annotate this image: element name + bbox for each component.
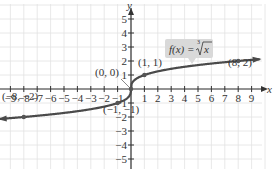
point-label: (0, 0) — [95, 66, 119, 79]
x-tick-label: 2 — [155, 92, 161, 104]
x-tick-label: 6 — [209, 92, 215, 104]
y-tick-label: 5 — [122, 13, 128, 25]
point-label: (−1, −1) — [103, 103, 140, 116]
curve-arrow-icon — [252, 57, 261, 63]
function-label: f(x) = 3 x — [165, 39, 213, 64]
x-tick-label: −5 — [58, 92, 70, 104]
x-tick-label: 8 — [235, 92, 241, 104]
point-label: (−8, −2) — [2, 90, 39, 103]
cube-root-graph: −9−8−7−6−5−4−3−2−1123456789−5−4−3−2−1123… — [0, 0, 274, 169]
x-tick-label: 5 — [195, 92, 201, 104]
data-point — [22, 115, 26, 119]
x-axis-label: x — [266, 83, 272, 95]
y-tick-label: −3 — [115, 125, 127, 137]
x-tick-label: 4 — [182, 92, 188, 104]
y-tick-label: 3 — [122, 41, 128, 53]
radical-index: 3 — [197, 39, 200, 45]
function-label-text: f(x) = — [169, 43, 194, 56]
radicand: x — [203, 43, 209, 55]
x-tick-label: −4 — [72, 92, 84, 104]
x-tick-label: −6 — [45, 92, 57, 104]
x-tick-label: −3 — [85, 92, 97, 104]
y-tick-label: 1 — [122, 69, 128, 81]
curve-arrow-icon — [0, 115, 7, 121]
data-point — [142, 73, 146, 77]
point-label: (1, 1) — [138, 56, 162, 69]
y-axis-label: y — [126, 0, 132, 11]
x-tick-label: 7 — [222, 92, 228, 104]
y-tick-label: 4 — [122, 27, 128, 39]
x-tick-label: 9 — [249, 92, 255, 104]
y-tick-label: −5 — [115, 153, 127, 165]
point-label: (8, 2) — [228, 56, 252, 69]
x-tick-label: 1 — [142, 92, 148, 104]
y-tick-label: 2 — [122, 55, 128, 67]
x-tick-label: 3 — [168, 92, 174, 104]
y-tick-label: −4 — [115, 139, 127, 151]
